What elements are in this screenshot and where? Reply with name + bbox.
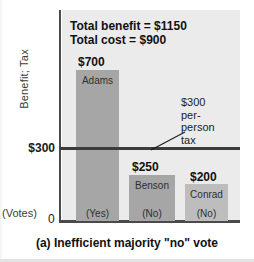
- y-axis-line: [59, 10, 61, 223]
- total-benefit-line: Total benefit = $1150: [70, 19, 187, 33]
- vote-tag-adams: (Yes): [76, 208, 119, 219]
- bar-label-conrad: Conrad: [185, 189, 228, 200]
- tax-annotation: $300 per- person tax: [181, 96, 215, 146]
- y-tick-0: 0: [48, 212, 55, 226]
- bar-conrad: Conrad (No): [185, 184, 228, 221]
- total-cost-line: Total cost = $900: [70, 33, 187, 47]
- tax-annotation-line-3: person: [181, 121, 215, 134]
- tax-annotation-line-1: $300: [181, 96, 215, 109]
- bar-adams: Adams (Yes): [76, 70, 119, 221]
- figure-left-edge: [0, 0, 3, 262]
- y-tick-300: $300: [5, 141, 55, 155]
- bar-benson: Benson (No): [129, 175, 175, 221]
- totals-annotation: Total benefit = $1150 Total cost = $900: [70, 19, 187, 47]
- bar-value-conrad: $200: [190, 170, 217, 184]
- bar-value-benson: $250: [132, 160, 159, 174]
- bar-label-adams: Adams: [76, 75, 119, 86]
- tax-reference-line: [60, 147, 240, 150]
- tax-annotation-line-2: per-: [181, 109, 215, 122]
- bar-label-benson: Benson: [129, 180, 175, 191]
- y-axis-title: Benefit; Tax: [18, 31, 36, 127]
- vote-tag-benson: (No): [129, 208, 175, 219]
- tax-annotation-line-4: tax: [181, 134, 215, 147]
- x-axis-title: (Votes): [2, 207, 37, 219]
- figure-caption: (a) Inefficient majority "no" vote: [0, 236, 254, 250]
- voting-benefit-tax-figure: Benefit; Tax $300 0 (Votes) Total benefi…: [0, 0, 254, 262]
- bar-value-adams: $700: [78, 55, 105, 69]
- vote-tag-conrad: (No): [185, 208, 228, 219]
